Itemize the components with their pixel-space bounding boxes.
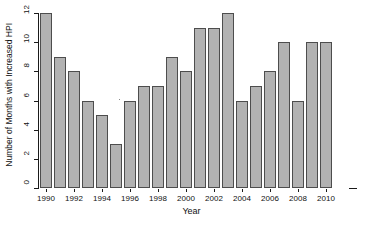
y-tick-label-8: 8 [23, 63, 31, 67]
x-tick-mark-1996 [130, 189, 131, 192]
bar-1998 [152, 86, 164, 188]
plot-area [40, 13, 348, 188]
x-tick-label-2008: 2008 [283, 194, 313, 203]
bar-2006 [264, 71, 276, 188]
scan-artifact-speck [119, 99, 120, 100]
x-tick-mark-1990 [46, 189, 47, 192]
y-axis-line [38, 13, 39, 189]
y-tick-label-wrap-4: 4 [0, 122, 33, 130]
y-tick-label-4: 4 [23, 122, 31, 126]
bar-1995 [110, 144, 122, 188]
bar-2007 [278, 42, 290, 188]
y-tick-label-wrap-6: 6 [0, 93, 33, 101]
x-axis-title-text: Year [182, 206, 200, 216]
x-tick-label-2010: 2010 [311, 194, 341, 203]
bar-1990 [40, 13, 52, 188]
bar-2010 [320, 42, 332, 188]
bar-2000 [180, 71, 192, 188]
x-tick-label-1994: 1994 [87, 194, 117, 203]
x-axis-stub-line [349, 188, 357, 189]
x-tick-mark-2000 [186, 189, 187, 192]
bar-2009 [306, 42, 318, 188]
y-tick-label-wrap-10: 10 [0, 34, 33, 42]
bar-1992 [68, 71, 80, 188]
x-tick-label-2004: 2004 [227, 194, 257, 203]
bar-chart-figure: Number of Months with Increased HPI 0246… [0, 0, 365, 226]
x-tick-label-1998: 1998 [143, 194, 173, 203]
y-tick-label-wrap-8: 8 [0, 63, 33, 71]
bar-2002 [208, 28, 220, 188]
bar-2004 [236, 101, 248, 189]
x-tick-mark-2002 [214, 189, 215, 192]
x-tick-label-1996: 1996 [115, 194, 145, 203]
bar-1996 [124, 101, 136, 189]
y-tick-label-0: 0 [23, 180, 31, 184]
x-tick-mark-1998 [158, 189, 159, 192]
x-tick-mark-2010 [326, 189, 327, 192]
bar-1991 [54, 57, 66, 188]
bar-1993 [82, 101, 94, 189]
bar-1999 [166, 57, 178, 188]
x-tick-label-1990: 1990 [31, 194, 61, 203]
y-tick-label-10: 10 [23, 34, 31, 43]
x-axis-title: Year [0, 206, 365, 216]
bar-1994 [96, 115, 108, 188]
y-tick-label-6: 6 [23, 93, 31, 97]
x-tick-label-2000: 2000 [171, 194, 201, 203]
bar-2003 [222, 13, 234, 188]
x-tick-label-2002: 2002 [199, 194, 229, 203]
x-tick-mark-1994 [102, 189, 103, 192]
x-tick-mark-1992 [74, 189, 75, 192]
x-tick-label-2006: 2006 [255, 194, 285, 203]
bar-2005 [250, 86, 262, 188]
x-tick-label-1992: 1992 [59, 194, 89, 203]
x-tick-mark-2006 [270, 189, 271, 192]
y-tick-label-wrap-2: 2 [0, 151, 33, 159]
y-tick-label-wrap-0: 0 [0, 180, 33, 188]
bar-1997 [138, 86, 150, 188]
y-tick-label-wrap-12: 12 [0, 5, 33, 13]
x-tick-mark-2008 [298, 189, 299, 192]
bar-2001 [194, 28, 206, 188]
bars-layer [40, 13, 348, 188]
y-tick-label-2: 2 [23, 151, 31, 155]
bar-2008 [292, 101, 304, 189]
y-tick-label-12: 12 [23, 5, 31, 14]
x-tick-mark-2004 [242, 189, 243, 192]
